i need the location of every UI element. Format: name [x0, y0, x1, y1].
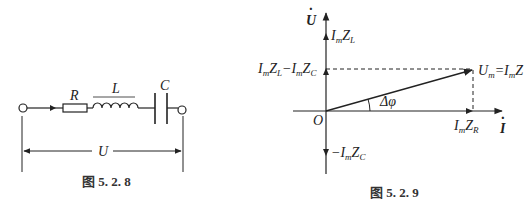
label-um: Um=ImZ	[478, 63, 523, 80]
voltage-label: U	[98, 144, 109, 159]
negc-arrow-icon	[323, 149, 329, 156]
resistor-label: R	[69, 88, 79, 103]
imzl-arrow-icon	[323, 33, 329, 40]
dot-icon: ·	[501, 111, 505, 126]
label-imzr: ImZR	[453, 118, 479, 135]
origin-label: O	[313, 113, 323, 128]
label-neg-imzc: −ImZC	[331, 145, 366, 162]
diagram-canvas: R L C U 图 5. 2. 8 U · I · O ImZL	[0, 0, 526, 211]
rlc-circuit: R L C U 图 5. 2. 8	[19, 78, 186, 189]
label-imzl: ImZL	[330, 28, 355, 45]
terminal-left	[19, 104, 27, 112]
imzr-arrow-icon	[466, 108, 473, 114]
label-delta-phi: Δφ	[379, 94, 396, 109]
label-diff: ImZL−ImZC	[257, 61, 317, 78]
inductor	[93, 103, 138, 108]
caption-right: 图 5. 2. 9	[370, 185, 419, 200]
inductor-label: L	[111, 81, 120, 96]
phasor-diagram: U · I · O ImZL ImZL−ImZC Um=ImZ Δφ ImZR	[257, 2, 523, 200]
terminal-right	[178, 106, 186, 114]
angle-arc	[368, 99, 370, 111]
um-vector	[326, 70, 472, 111]
dot-icon: ·	[309, 2, 313, 17]
caption-left: 图 5. 2. 8	[82, 174, 131, 189]
capacitor-label: C	[160, 78, 170, 93]
resistor	[63, 104, 87, 112]
